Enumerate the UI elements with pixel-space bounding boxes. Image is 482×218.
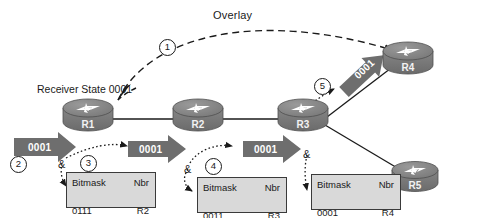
and-operator-r1: & [58,158,65,170]
flow-label-r1-r2: 0001 [139,144,162,155]
table-header-nbr: Nbr [265,182,280,193]
flow-label-ingress-r1: 0001 [28,142,51,153]
router-label-r5: R5 [396,180,434,191]
forwarding-table-r3[interactable]: Bitmask Nbr 0001 R4 [311,174,401,210]
table-cell-bitmask: 0011 [203,210,223,218]
and-operator-r2: & [184,163,191,175]
table-row: 0011 R3 [198,210,286,218]
table-cell-bitmask: 0111 [72,205,92,216]
step-marker-4: 4 [205,158,222,175]
forwarding-table-r2[interactable]: Bitmask Nbr 0011 R3 [197,177,287,213]
router-label-r1: R1 [68,119,108,130]
table-header-bitmask: Bitmask [203,182,237,193]
table-cell-nbr: R4 [382,207,394,218]
forwarding-table-r1[interactable]: Bitmask Nbr 0111 R2 [66,172,156,208]
table-header-nbr: Nbr [134,177,149,188]
step-marker-3: 3 [80,155,97,172]
receiver-state-label: Receiver State 0001 [37,83,132,95]
router-label-r3: R3 [283,119,323,130]
overlay-label: Overlay [213,9,252,21]
diagram-canvas: Overlay Receiver State 0001 R1 R2 R3 R4 … [0,0,482,218]
table-cell-nbr: R2 [137,205,149,216]
table-row: 0111 R2 [67,205,155,218]
link-r3-r5 [325,125,404,172]
table-cell-bitmask: 0001 [317,207,338,218]
table-header-nbr: Nbr [379,179,394,190]
table-header-bitmask: Bitmask [317,179,351,190]
table-cell-nbr: R3 [268,210,280,218]
router-label-r4: R4 [388,62,428,73]
router-label-r2: R2 [178,119,218,130]
step-marker-5: 5 [314,78,331,95]
table-row: 0001 R4 [312,207,400,218]
and-operator-r3: & [303,148,310,160]
step-marker-1: 1 [159,39,176,56]
table-header-bitmask: Bitmask [72,177,106,188]
flow-label-r2-r3: 0001 [254,144,277,155]
step-marker-2: 2 [10,156,27,173]
